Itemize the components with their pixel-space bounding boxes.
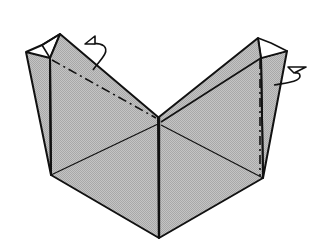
left-panel	[26, 34, 159, 238]
right-front-face	[159, 38, 263, 238]
left-back-flap	[26, 52, 51, 175]
origami-diagram	[0, 0, 318, 248]
arrowhead-right-icon	[288, 67, 306, 73]
right-back-flap	[261, 51, 287, 178]
arrowhead-left-icon	[85, 36, 95, 44]
left-front-face	[50, 34, 159, 238]
right-panel	[159, 38, 287, 238]
left-inner-crease	[50, 58, 51, 175]
